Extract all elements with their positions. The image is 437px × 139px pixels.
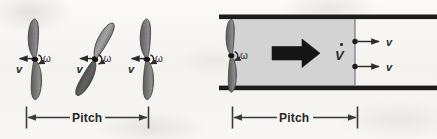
velocity-label-lower: v [386, 62, 392, 73]
propeller-3-velocity-label: v [128, 64, 134, 75]
propeller-tube-blade-upper [226, 19, 234, 55]
tube-wall-top [219, 15, 437, 20]
velocity-label-upper: v [386, 37, 392, 48]
propeller-2 [71, 20, 120, 98]
volumetric-flow-rate-symbol: V [335, 48, 344, 63]
figure-canvas: v ω v ω v ω Pitch ω V v v Pitch [0, 0, 437, 139]
propeller-1-blade-lower [31, 60, 41, 100]
right-panel-group [219, 15, 437, 129]
propeller-1-blade-upper [28, 19, 38, 59]
propeller-3 [132, 19, 154, 100]
propeller-1-velocity-label: v [16, 64, 22, 75]
velocity-point-lower [352, 64, 357, 69]
propeller-2-velocity-label: v [77, 64, 83, 75]
propeller-2-omega-label: ω [104, 54, 112, 64]
propeller-1-omega-label: ω [43, 54, 51, 64]
velocity-vectors [352, 39, 379, 69]
right-pitch-label: Pitch [279, 112, 309, 124]
tube-wall-bottom [219, 86, 437, 91]
propeller-3-hub [144, 57, 151, 62]
propeller-tube-omega-label: ω [240, 51, 248, 61]
volumetric-flow-rate-overdot [340, 43, 343, 46]
propeller-3-blade-upper [140, 19, 150, 59]
propeller-1-hub [32, 57, 39, 62]
propeller-1-omega-arc [38, 55, 41, 64]
volumetric-flow-rate-label: V [335, 46, 344, 64]
velocity-point-upper [352, 39, 357, 44]
left-pitch-label: Pitch [72, 112, 102, 124]
figure-svg [0, 0, 437, 139]
propeller-tube-hub [228, 53, 234, 58]
propeller-3-omega-label: ω [155, 54, 163, 64]
propeller-1 [20, 19, 42, 100]
propeller-3-omega-arc [150, 55, 153, 64]
propeller-3-blade-lower [143, 60, 153, 100]
propeller-2-omega-arc [99, 55, 102, 64]
